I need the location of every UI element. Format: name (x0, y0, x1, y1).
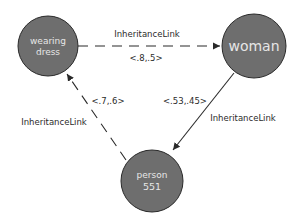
node-label-line1: woman (228, 38, 279, 54)
node-label-line2: 551 (143, 181, 161, 192)
truth-value-label: <.53,.45> (163, 96, 207, 106)
edge-type-label: InheritanceLink (21, 117, 87, 127)
edge-type-label: InheritanceLink (114, 29, 180, 39)
inheritance-diagram: InheritanceLink <.8,.5> <.53,.45> Inheri… (0, 0, 304, 221)
node-woman[interactable]: woman (222, 14, 286, 78)
node-label-line1: wearing (30, 36, 66, 46)
edge-wearing-dress-to-woman: InheritanceLink <.8,.5> (78, 29, 220, 63)
edge-person-551-to-wearing-dress: <.7,.6> InheritanceLink (21, 74, 126, 160)
node-label-line2: dress (36, 47, 60, 57)
node-label-line1: person (137, 170, 168, 180)
solid-arrow (173, 73, 234, 150)
node-circle (18, 16, 78, 76)
edge-woman-to-person-551: <.53,.45> InheritanceLink (163, 73, 276, 150)
truth-value-label: <.7,.6> (91, 96, 124, 106)
truth-value-label: <.8,.5> (129, 53, 162, 63)
node-wearing-dress[interactable]: wearing dress (18, 16, 78, 76)
edge-type-label: InheritanceLink (210, 113, 276, 123)
node-person-551[interactable]: person 551 (121, 150, 183, 212)
